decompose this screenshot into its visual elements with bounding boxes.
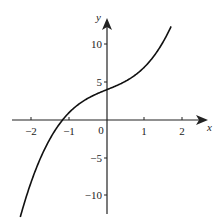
x-axis-label: x <box>206 121 212 133</box>
y-tick-label: −10 <box>85 189 103 201</box>
x-tick-label: 2 <box>179 125 185 137</box>
origin-label: 0 <box>98 124 104 136</box>
chart: −2 −1 0 1 2 10 5 −5 −10 x y <box>0 0 223 222</box>
y-tick-label: 5 <box>97 76 103 88</box>
x-tick-label: −2 <box>25 125 37 137</box>
y-axis-label: y <box>95 11 101 23</box>
y-tick-label: −5 <box>90 152 102 164</box>
x-tick-label: −1 <box>63 125 75 137</box>
y-tick-label: 10 <box>91 38 103 50</box>
x-tick-label: 1 <box>141 125 147 137</box>
